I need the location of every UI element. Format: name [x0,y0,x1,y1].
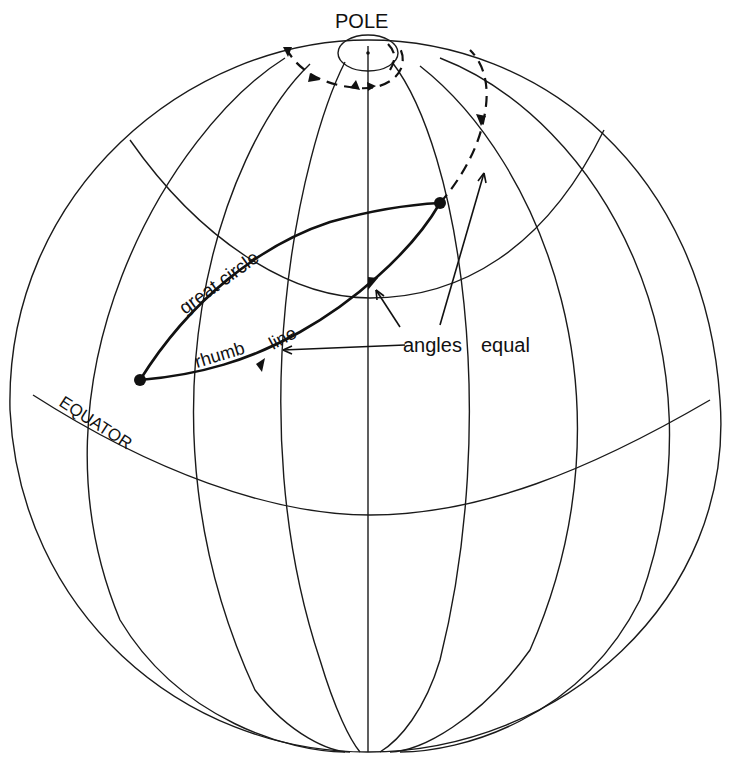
angle-marker-pole-bottom1 [350,80,360,90]
end-point [434,197,446,209]
angle-marker-center [368,277,378,290]
angle-marker-pole-bottom2 [367,82,376,91]
equal-label: equal [481,334,530,356]
great-circle-label: great circle [175,247,263,319]
pole-label: POLE [335,10,388,32]
equator-label: EQUATOR [56,392,136,453]
start-point [134,374,146,386]
equator-line [33,395,710,515]
globe-outline [10,40,721,752]
annotation-arrows [283,173,486,354]
globe-diagram: POLE EQUATOR great circle rhumb line ang… [0,0,729,762]
meridians [87,46,669,752]
angle-marker-rhumb-left [256,358,265,372]
angles-label: angles [403,334,462,356]
pole-point [366,51,370,55]
